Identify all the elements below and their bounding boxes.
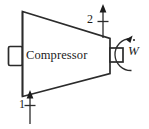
compressor-label: Compressor bbox=[26, 49, 87, 62]
outlet-arrowhead-2 bbox=[100, 4, 107, 13]
work-rate-symbol: W bbox=[128, 44, 139, 57]
rotation-arrowhead bbox=[126, 36, 133, 44]
state-label-1: 1 bbox=[19, 98, 25, 110]
state-label-2: 2 bbox=[87, 13, 93, 25]
work-symbol-letter: W bbox=[128, 43, 139, 58]
inlet-flange-rect bbox=[9, 47, 23, 66]
compressor-schematic-figure: Compressor 2 1 W bbox=[0, 0, 149, 129]
